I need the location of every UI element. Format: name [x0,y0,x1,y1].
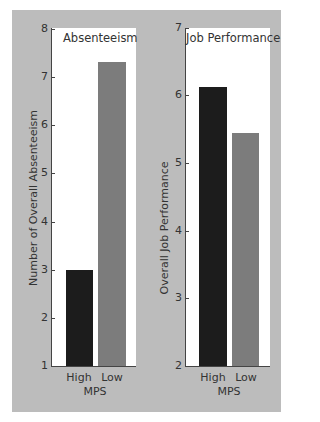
y-tick [51,125,55,126]
x-category-label: Low [97,372,127,384]
y-tick-label: 2 [34,312,48,323]
y-tick [185,95,189,96]
y-tick [51,222,55,223]
y-tick [185,231,189,232]
bar-low [98,62,126,366]
chart-title: Job Performance [186,32,280,45]
bar-low [232,133,259,366]
y-tick [51,77,55,78]
y-tick [51,318,55,319]
x-axis-label: MPS [209,386,249,398]
y-tick-label: 7 [168,22,182,33]
x-category-label: Low [231,372,261,384]
bar-high [66,270,93,366]
y-axis [51,28,52,367]
y-tick [185,298,189,299]
y-tick [51,29,55,30]
bar-high [199,87,227,366]
x-axis [185,366,270,367]
y-tick [185,163,189,164]
x-category-label: High [64,372,94,384]
x-axis [51,366,136,367]
x-axis-label: MPS [75,386,115,398]
y-tick-label: 8 [34,23,48,34]
y-tick-label: 7 [34,71,48,82]
y-axis-label: Overall Job Performance [159,148,171,308]
y-tick [51,270,55,271]
y-tick-label: 2 [168,360,182,371]
y-tick [185,28,189,29]
y-tick-label: 1 [34,360,48,371]
y-axis-label: Number of Overall Absenteeism [28,108,40,288]
x-category-label: High [198,372,228,384]
chart-title: Absenteeism [63,32,138,45]
y-axis [185,28,186,367]
y-tick-label: 6 [168,89,182,100]
y-tick [51,173,55,174]
